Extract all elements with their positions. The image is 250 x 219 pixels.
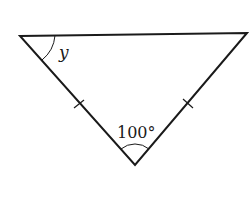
angle-arc-bottom xyxy=(121,144,149,149)
angle-arc-y xyxy=(42,36,55,61)
triangle xyxy=(20,33,247,165)
angle-label-y: y xyxy=(58,42,69,62)
triangle-diagram: y 100° xyxy=(0,0,250,219)
angle-label-bottom: 100° xyxy=(117,123,156,142)
